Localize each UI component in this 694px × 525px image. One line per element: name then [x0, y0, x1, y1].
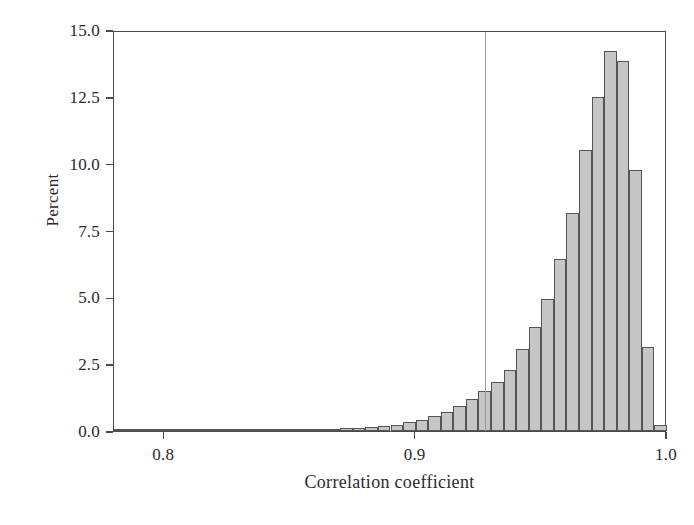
- histogram-bar: [303, 429, 316, 431]
- x-tick-label: 0.8: [133, 446, 193, 463]
- histogram-bar: [529, 327, 542, 431]
- histogram-bar: [189, 429, 202, 431]
- x-tick-label: 0.9: [385, 446, 445, 463]
- histogram-bar: [277, 429, 290, 431]
- x-tick-mark: [414, 432, 415, 439]
- y-tick-label: 0.0: [78, 423, 100, 440]
- histogram-bar: [654, 425, 667, 431]
- histogram-bar: [365, 427, 378, 431]
- histogram-bar: [554, 259, 567, 431]
- histogram-bar: [265, 429, 278, 431]
- histogram-bar: [240, 429, 253, 431]
- histogram-bar: [629, 170, 642, 431]
- x-tick-label: 1.0: [636, 446, 694, 463]
- histogram-bar: [227, 429, 240, 431]
- histogram-bar: [315, 429, 328, 431]
- y-tick-mark: [106, 364, 113, 365]
- y-tick-label: 10.0: [69, 156, 100, 173]
- histogram-bar: [441, 412, 454, 431]
- histogram-bar: [504, 370, 517, 431]
- x-tick-mark: [665, 432, 666, 439]
- y-axis-label: Percent: [43, 173, 63, 226]
- y-tick-label: 15.0: [69, 22, 100, 39]
- histogram-bar: [139, 429, 152, 431]
- histogram-bar: [164, 429, 177, 431]
- histogram-bar: [340, 428, 353, 431]
- histogram-bar: [152, 429, 165, 431]
- y-tick-label: 7.5: [78, 223, 100, 240]
- histogram-bar: [328, 429, 341, 431]
- histogram-bar: [453, 406, 466, 431]
- reference-line-annotation: [485, 32, 486, 431]
- y-tick-mark: [106, 164, 113, 165]
- histogram-bar: [114, 429, 127, 431]
- y-tick-label: 5.0: [78, 289, 100, 306]
- y-tick-mark: [106, 30, 113, 31]
- histogram-bar: [416, 420, 429, 431]
- histogram-bars: [114, 32, 665, 431]
- x-axis-label: Correlation coefficient: [113, 472, 666, 493]
- histogram-bar: [516, 349, 529, 431]
- histogram-bar: [604, 51, 617, 431]
- histogram-figure: Percent 0.02.55.07.510.012.515.0 0.80.91…: [0, 0, 694, 525]
- x-tick-mark: [163, 432, 164, 439]
- histogram-bar: [617, 61, 630, 431]
- histogram-bar: [642, 347, 655, 431]
- histogram-bar: [215, 429, 228, 431]
- histogram-bar: [592, 97, 605, 431]
- y-tick-mark: [106, 431, 113, 432]
- histogram-bar: [127, 429, 140, 431]
- histogram-bar: [353, 428, 366, 431]
- histogram-bar: [391, 425, 404, 431]
- histogram-bar: [541, 299, 554, 431]
- y-tick-mark: [106, 97, 113, 98]
- histogram-bar: [491, 382, 504, 431]
- plot-area: [113, 31, 666, 432]
- y-tick-label: 2.5: [78, 356, 100, 373]
- y-tick-label: 12.5: [69, 89, 100, 106]
- histogram-bar: [428, 416, 441, 431]
- histogram-bar: [252, 429, 265, 431]
- histogram-bar: [466, 399, 479, 431]
- y-tick-mark: [106, 298, 113, 299]
- histogram-bar: [378, 426, 391, 431]
- histogram-bar: [403, 422, 416, 431]
- histogram-bar: [566, 213, 579, 431]
- histogram-bar: [177, 429, 190, 431]
- y-tick-mark: [106, 231, 113, 232]
- histogram-bar: [202, 429, 215, 431]
- histogram-bar: [290, 429, 303, 431]
- histogram-bar: [579, 150, 592, 431]
